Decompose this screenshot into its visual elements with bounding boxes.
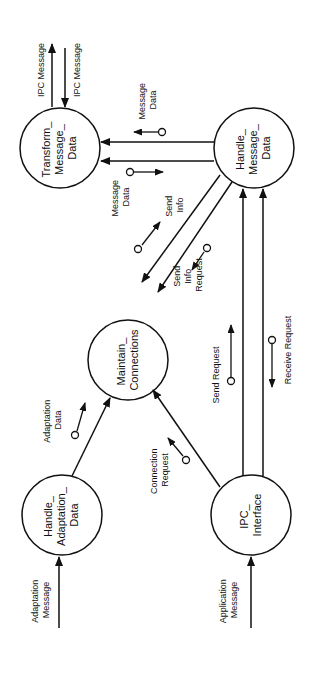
couple-send-info: [135, 222, 161, 253]
label-application-message: Application Message: [218, 577, 239, 624]
label-ipc-message-out: IPC Message: [36, 43, 46, 97]
label-connection-request: Connection Request: [149, 446, 170, 494]
couple-message-data-bottom: [127, 169, 164, 176]
node-label-maintain: Maintain_ Connections: [115, 329, 140, 391]
couple-send-request: [228, 325, 235, 385]
label-ipc-message-in: IPC Message: [72, 43, 82, 97]
label-send-info: Send Info: [164, 193, 185, 217]
label-adaptation-message: Adaptation Message: [30, 577, 51, 623]
couple-receive-request: [269, 337, 276, 388]
label-receive-request: Receive Request: [283, 315, 293, 384]
couple-connection-request: [168, 438, 190, 464]
couple-adaptation-data: [72, 403, 86, 439]
data-flow-diagram: Transform_ Message_ Data Handle_ Message…: [0, 0, 312, 689]
label-send-request: Send Request: [211, 346, 221, 404]
couple-message-data-top: [134, 129, 166, 136]
label-adaptation-data: Adaptation Data: [42, 397, 63, 443]
label-message-data-bottom: Message Data: [110, 177, 131, 216]
label-message-data-top: Message Data: [137, 80, 158, 119]
